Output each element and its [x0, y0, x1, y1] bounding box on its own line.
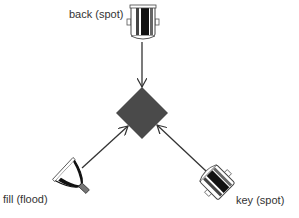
subject-diamond	[116, 87, 168, 139]
arrow-key-to-subject	[157, 125, 206, 171]
arrow-fill-to-subject	[82, 126, 128, 168]
key-spot-label: key (spot)	[236, 194, 284, 206]
back-spot-label: back (spot)	[69, 8, 123, 20]
fill-flood-label: fill (flood)	[3, 193, 48, 205]
fill-flood-light-icon	[53, 157, 98, 202]
lighting-diagram	[0, 0, 299, 218]
back-spot-light-icon	[127, 5, 159, 39]
